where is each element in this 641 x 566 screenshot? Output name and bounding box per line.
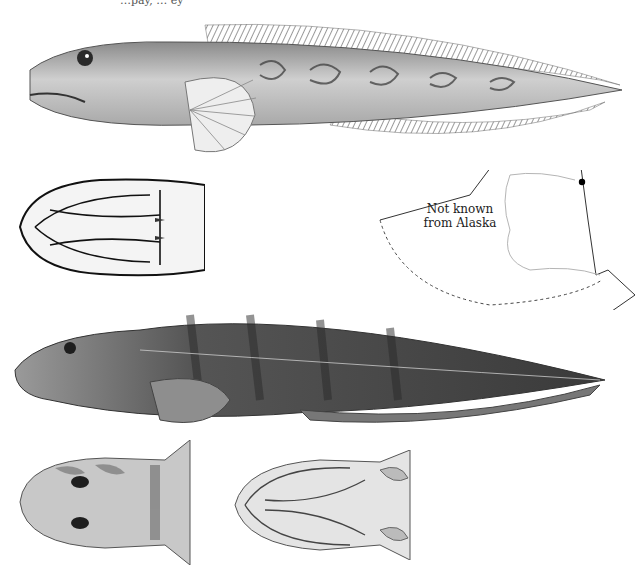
ventral-head-line-figure (10, 170, 205, 285)
map-label: Not known from Alaska (420, 202, 500, 230)
map-label-line1: Not known (420, 202, 500, 216)
dorsal-head-figure (15, 440, 195, 565)
map-label-line2: from Alaska (420, 216, 500, 230)
range-map (370, 170, 640, 310)
fish-lateral-dark-figure (10, 300, 610, 430)
record-point-marker (579, 179, 585, 185)
fish-lateral-light-figure (10, 10, 630, 160)
caption-fragment: …pay, … ey (120, 0, 184, 7)
ventral-head-figure (230, 450, 415, 560)
